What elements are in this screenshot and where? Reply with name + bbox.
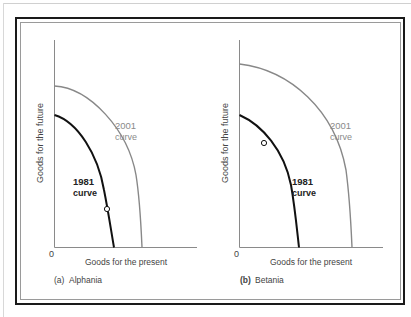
panel-a-point-marker — [104, 206, 109, 211]
panel-b-label-1981-year: 1981 — [292, 176, 314, 187]
panel-a-caption-name: Alphania — [69, 275, 102, 285]
panel-a-x-axis-label: Goods for the present — [85, 257, 168, 267]
panel-a-label-2001-word: curve — [115, 132, 137, 142]
panel-a-origin-label: 0 — [49, 249, 54, 259]
panel-a-alphania: 2001 curve 1981 curve Goods for the futu… — [35, 40, 197, 285]
panel-b-origin-label: 0 — [234, 249, 239, 259]
panel-b-betania: 2001 curve 1981 curve Goods for the futu… — [220, 40, 383, 285]
panel-b-caption-letter: (b) — [240, 275, 251, 285]
panel-b-point-marker — [261, 140, 266, 145]
panel-b-y-axis-label: Goods for the future — [220, 103, 230, 183]
panel-b-label-2001-word: curve — [330, 132, 352, 142]
panel-b-caption-name: Betania — [255, 275, 284, 285]
panel-b-x-axis-label: Goods for the present — [270, 257, 353, 267]
panel-b-curve-1981 — [240, 115, 300, 248]
figure-canvas: 2001 curve 1981 curve Goods for the futu… — [0, 0, 411, 317]
panel-b-label-1981-word: curve — [292, 188, 316, 198]
panel-a-label-1981-year: 1981 — [73, 176, 95, 187]
panel-a-label-1981-word: curve — [73, 188, 97, 198]
panel-b-label-2001-year: 2001 — [330, 120, 351, 131]
panel-a-y-axis-label: Goods for the future — [35, 103, 45, 183]
panel-a-caption-letter: (a) — [54, 275, 65, 285]
panel-a-label-2001-year: 2001 — [115, 120, 136, 131]
